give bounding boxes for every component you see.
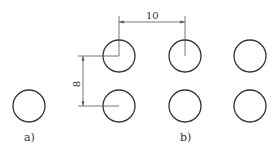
figure-a: a) xyxy=(13,90,45,144)
circle-r2-c2 xyxy=(169,90,201,122)
dimension-label-8: 8 xyxy=(71,81,82,87)
circle-r2-c3 xyxy=(234,90,266,122)
label-a: a) xyxy=(24,131,35,144)
circle-r1-c3 xyxy=(234,40,266,72)
label-b: b) xyxy=(180,131,191,144)
dimension-label-10: 10 xyxy=(146,10,159,21)
figure-b: b) xyxy=(103,40,266,144)
dimension-vertical: 8 xyxy=(71,56,119,106)
dimension-horizontal: 10 xyxy=(119,10,185,56)
circle xyxy=(13,90,45,122)
diagram-canvas: a) b) 10 8 xyxy=(0,0,280,158)
